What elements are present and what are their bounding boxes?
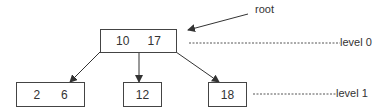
leaf-node-middle: 12: [123, 82, 162, 107]
leaf-left-key-2: 6: [61, 88, 68, 102]
leaf-node-right: 18: [208, 82, 247, 107]
root-label: root: [255, 3, 274, 15]
leaf-middle-key-1: 12: [136, 88, 149, 102]
root-key-1: 10: [116, 34, 129, 48]
edge-root-to-right: [176, 52, 219, 82]
leaf-left-key-1: 2: [33, 88, 40, 102]
leaf-right-key-1: 18: [221, 88, 234, 102]
level-0-label: level 0: [340, 36, 372, 48]
level-1-label: level 1: [336, 87, 368, 99]
root-key-2: 17: [148, 34, 161, 48]
root-pointer-arrow: [188, 14, 248, 30]
root-node: 10 17: [100, 29, 177, 53]
leaf-node-left: 2 6: [16, 82, 85, 107]
edge-root-to-left: [70, 52, 100, 82]
